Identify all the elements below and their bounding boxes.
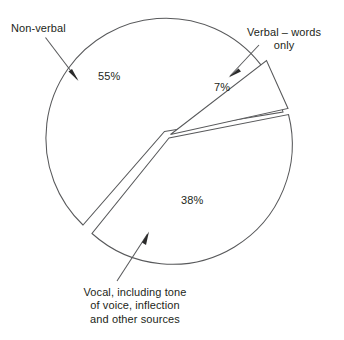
pie-chart-figure: Non-verbal Verbal – wordsonly Vocal, inc… (0, 0, 344, 340)
slice-label-vocal-line2: of voice, inflection (90, 299, 179, 311)
slice-label-vocal-line1: Vocal, including tone (83, 286, 186, 298)
slice-label-non-verbal: Non-verbal (11, 22, 66, 35)
slice-label-vocal-line3: and other sources (90, 313, 180, 325)
slice-value-non-verbal: 55% (98, 70, 120, 83)
slice-value-vocal: 38% (181, 194, 203, 207)
slice-label-vocal: Vocal, including toneof voice, inflectio… (52, 286, 218, 326)
slice-label-verbal-line2: only (274, 39, 295, 51)
slice-value-verbal: 7% (214, 81, 230, 94)
slice-label-verbal: Verbal – wordsonly (230, 26, 338, 53)
slice-label-verbal-line1: Verbal – words (247, 26, 321, 38)
